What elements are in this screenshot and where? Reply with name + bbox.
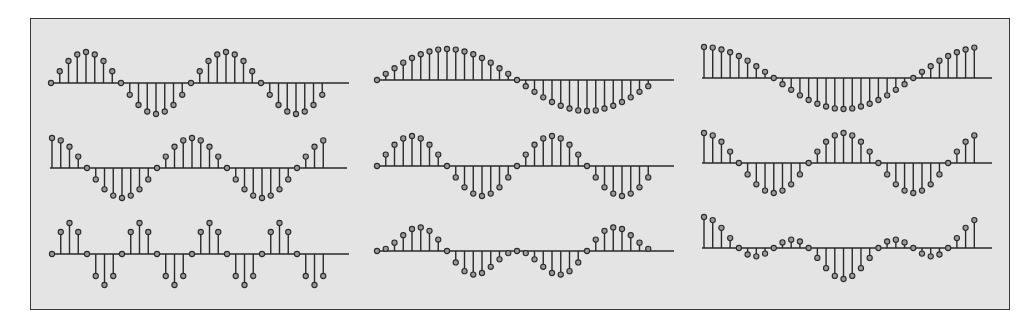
stem-marker xyxy=(832,106,837,111)
stem-marker xyxy=(771,190,776,195)
stem-marker xyxy=(101,58,106,63)
stem-marker xyxy=(797,239,802,244)
stem-marker xyxy=(885,93,890,98)
stem-marker xyxy=(541,264,546,269)
stem-marker xyxy=(383,246,388,251)
stem-marker xyxy=(409,55,414,60)
stem-marker xyxy=(850,273,855,278)
stem-marker xyxy=(815,255,820,260)
stem-plot-1 xyxy=(48,49,349,116)
stem-marker xyxy=(453,47,458,52)
stem-marker xyxy=(488,264,493,269)
stem-marker xyxy=(858,104,863,109)
stem-marker xyxy=(401,233,406,238)
stem-marker xyxy=(444,163,449,168)
stem-marker xyxy=(119,195,124,200)
stem-marker xyxy=(293,111,298,116)
stem-marker xyxy=(541,136,546,141)
stem-marker xyxy=(806,97,811,102)
stem-marker xyxy=(789,182,794,187)
stem-marker xyxy=(549,99,554,104)
stem-marker xyxy=(972,45,977,50)
stem-marker xyxy=(58,138,63,143)
stem-marker xyxy=(418,225,423,230)
stem-marker xyxy=(946,160,951,165)
stem-marker xyxy=(427,49,432,54)
stem-marker xyxy=(444,248,449,253)
stem-marker xyxy=(286,177,291,182)
stem-marker xyxy=(523,84,528,89)
stem-marker xyxy=(876,97,881,102)
stem-marker xyxy=(911,190,916,195)
stem-marker xyxy=(321,138,326,143)
stem-marker xyxy=(259,251,264,256)
stem-marker xyxy=(762,251,767,256)
stem-marker xyxy=(232,52,237,57)
stem-marker xyxy=(172,144,177,149)
stem-marker xyxy=(427,142,432,147)
stem-plot-2 xyxy=(374,46,674,113)
stem-marker xyxy=(137,187,142,192)
stem-marker xyxy=(946,245,951,250)
stem-marker xyxy=(207,220,212,225)
stem-marker xyxy=(75,52,80,57)
stem-marker xyxy=(558,103,563,108)
stem-marker xyxy=(427,228,432,233)
stem-marker xyxy=(619,193,624,198)
stem-marker xyxy=(902,240,907,245)
stem-marker xyxy=(312,144,317,149)
stem-marker xyxy=(102,187,107,192)
stem-marker xyxy=(745,252,750,257)
stem-marker xyxy=(928,254,933,259)
stem-marker xyxy=(242,187,247,192)
stem-marker xyxy=(383,71,388,76)
stem-marker xyxy=(937,172,942,177)
stem-marker xyxy=(277,187,282,192)
stem-marker xyxy=(850,133,855,138)
stem-marker xyxy=(584,108,589,113)
stem-marker xyxy=(250,69,255,74)
stem-marker xyxy=(163,154,168,159)
stem-marker xyxy=(171,102,176,107)
stem-marker xyxy=(66,58,71,63)
stem-marker xyxy=(584,163,589,168)
stem-marker xyxy=(815,101,820,106)
stem-marker xyxy=(146,229,151,234)
stem-marker xyxy=(736,160,741,165)
stem-marker xyxy=(780,240,785,245)
stem-marker xyxy=(409,226,414,231)
stem-marker xyxy=(532,142,537,147)
stem-marker xyxy=(92,52,97,57)
stem-marker xyxy=(119,251,124,256)
stem-marker xyxy=(780,82,785,87)
stem-marker xyxy=(628,233,633,238)
stem-marker xyxy=(919,188,924,193)
stem-marker xyxy=(471,272,476,277)
stem-marker xyxy=(118,80,123,85)
stem-plot-3 xyxy=(701,44,992,111)
stem-marker xyxy=(277,220,282,225)
stem-marker xyxy=(312,282,317,287)
stem-marker xyxy=(762,188,767,193)
stem-marker xyxy=(181,273,186,278)
stem-marker xyxy=(893,237,898,242)
stem-marker xyxy=(409,133,414,138)
stem-marker xyxy=(67,220,72,225)
stem-marker xyxy=(728,50,733,55)
stem-marker xyxy=(946,53,951,58)
stem-marker xyxy=(628,95,633,100)
stem-marker xyxy=(646,246,651,251)
stem-marker xyxy=(867,149,872,154)
stem-marker xyxy=(823,139,828,144)
stem-marker xyxy=(401,60,406,65)
stem-marker xyxy=(841,276,846,281)
stem-marker xyxy=(646,84,651,89)
stem-marker xyxy=(294,165,299,170)
stem-marker xyxy=(719,139,724,144)
stem-marker xyxy=(462,269,467,274)
stem-marker xyxy=(885,172,890,177)
stem-marker xyxy=(303,273,308,278)
stem-marker xyxy=(567,269,572,274)
stem-marker xyxy=(728,149,733,154)
stem-marker xyxy=(58,229,63,234)
